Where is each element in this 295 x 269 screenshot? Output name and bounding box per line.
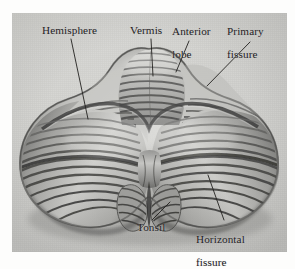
label-anterior-lobe-line1: Anterior	[172, 26, 211, 38]
label-primary-fissure-line2: fissure	[227, 49, 264, 61]
label-primary-fissure: Primary fissure	[227, 14, 264, 72]
label-horizontal-fissure-line1: Horizontal	[196, 234, 245, 246]
label-anterior-lobe: Anterior lobe	[172, 14, 211, 72]
label-anterior-lobe-line2: lobe	[172, 49, 211, 61]
label-tonsil: Tonsil	[137, 222, 165, 234]
label-horizontal-fissure: Horizontal fissure	[196, 222, 245, 269]
label-horizontal-fissure-line2: fissure	[196, 257, 245, 269]
figure-page: Hemisphere Vermis Anterior lobe Primary …	[0, 0, 295, 269]
label-vermis: Vermis	[130, 25, 162, 37]
label-primary-fissure-line1: Primary	[227, 26, 264, 38]
label-hemisphere: Hemisphere	[42, 25, 97, 37]
